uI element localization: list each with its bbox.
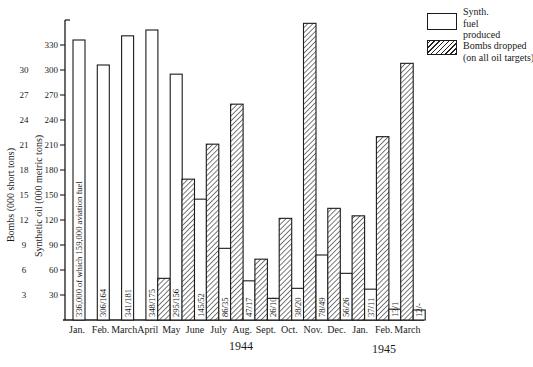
month-label: March — [394, 324, 420, 335]
bombs-axis-tick-label: 3 — [22, 290, 27, 300]
synth-fuel-bar-label: 38/20 — [293, 297, 303, 317]
month-label: Jan. — [69, 324, 85, 335]
bombs-axis-title: Bombs (000 short tons) — [5, 148, 16, 242]
bombs-dropped-bar — [231, 104, 244, 320]
month-label: Oct. — [281, 324, 298, 335]
synthetic-oil-axis-title: Synthetic oil (000 metric tons) — [33, 135, 44, 257]
synth-axis-tick-label: 270 — [45, 90, 59, 100]
bombs-axis-tick-label: 15 — [20, 190, 30, 200]
bombs-dropped-bar — [158, 278, 171, 320]
legend-swatch-synth-fuel — [427, 13, 457, 30]
synth-fuel-bar — [170, 74, 182, 320]
bombs-axis-tick-label: 6 — [22, 265, 27, 275]
bombs-axis-tick-label: 12 — [20, 215, 29, 225]
month-label: May — [162, 324, 180, 335]
synth-fuel-bar-label: 37/11 — [366, 298, 376, 317]
synth-axis-tick-label: 240 — [45, 115, 59, 125]
synth-axis-tick-label: 300 — [45, 65, 59, 75]
synth-fuel-bar-label: 145/52 — [196, 293, 206, 317]
synth-fuel-bar-label: 47/17 — [244, 297, 254, 317]
bombs-axis-tick-label: 9 — [22, 240, 27, 250]
bombs-axis-tick-label: 21 — [20, 140, 29, 150]
month-label: July — [210, 324, 227, 335]
synth-axis-tick-label: 180 — [45, 165, 59, 175]
legend-label-bombs-dropped: Bombs dropped (on all oil targets) — [463, 40, 533, 63]
legend-line: (on all oil targets) — [463, 52, 533, 64]
synth-fuel-bar-label: 336,000 of which 159,000 aviation fuel — [74, 181, 84, 317]
legend-line: Synth. — [463, 6, 500, 18]
bombs-axis-tick-label: 27 — [20, 90, 30, 100]
synth-fuel-bar-label: 26/10 — [268, 297, 278, 317]
synth-axis-tick-label: 60 — [49, 265, 59, 275]
month-label: April — [137, 324, 158, 335]
synth-fuel-bar-label: 295/156 — [171, 288, 181, 317]
legend-line: Bombs dropped — [463, 40, 533, 52]
bombs-axis-tick-label: 18 — [20, 165, 30, 175]
bombs-dropped-bar — [376, 137, 389, 320]
synth-fuel-bar-label: 12/- — [414, 303, 424, 317]
synth-fuel-bar — [122, 36, 134, 320]
bombs-dropped-bar — [401, 63, 414, 320]
synth-axis-tick-label: 90 — [49, 240, 59, 250]
synth-fuel-bar-label: 86/35 — [220, 297, 230, 317]
year-label-1944: 1944 — [229, 339, 253, 354]
bombs-dropped-bar — [328, 208, 341, 320]
legend-swatch-bombs-dropped — [427, 40, 457, 55]
synth-axis-tick-label: 150 — [45, 190, 59, 200]
month-label: Dec. — [327, 324, 346, 335]
synth-axis-tick-label: 30 — [49, 290, 59, 300]
synth-fuel-bar — [97, 65, 109, 320]
synth-axis-tick-label: 210 — [45, 140, 59, 150]
bombs-dropped-bar — [279, 218, 292, 320]
month-label: Sept. — [256, 324, 276, 335]
synth-fuel-bar-label: 341/181 — [123, 289, 133, 317]
chart-figure: 3060901201501802102402703003303691215182… — [0, 0, 533, 367]
month-label: June — [186, 324, 205, 335]
bombs-dropped-bar — [255, 259, 268, 320]
year-label-1945: 1945 — [372, 342, 396, 357]
synth-fuel-bar-label: 13/1 — [390, 302, 400, 317]
bombs-dropped-bar — [182, 179, 195, 320]
month-label: Nov. — [303, 324, 322, 335]
chart-canvas: 3060901201501802102402703003303691215182… — [0, 0, 533, 367]
month-label: March — [111, 324, 137, 335]
month-label: Aug. — [232, 324, 252, 335]
synth-axis-tick-label: 120 — [45, 215, 59, 225]
bombs-dropped-bar — [304, 23, 317, 320]
month-label: Feb. — [375, 324, 393, 335]
synth-fuel-bar-label: 78/49 — [317, 297, 327, 317]
synth-axis-tick-label: 330 — [45, 40, 59, 50]
synth-fuel-bar-label: 56/26 — [341, 297, 351, 317]
bombs-axis-tick-label: 24 — [20, 115, 30, 125]
synth-fuel-bar-label: 348/175 — [147, 289, 157, 317]
legend-label-synth-fuel: Synth. fuel produced — [463, 6, 500, 41]
month-label: Jan. — [352, 324, 368, 335]
bombs-axis-tick-label: 30 — [20, 65, 30, 75]
bombs-dropped-bar — [352, 216, 365, 320]
synth-fuel-bar — [146, 30, 158, 320]
bars: 336,000 of which 159,000 aviation fuel30… — [73, 23, 425, 320]
legend-line: fuel — [463, 18, 500, 30]
synth-fuel-bar-label: 306/164 — [98, 288, 108, 317]
bombs-dropped-bar — [206, 144, 219, 320]
category-labels: Jan.Feb.MarchAprilMayJuneJulyAug.Sept.Oc… — [69, 324, 420, 335]
legend-line: produced — [463, 29, 500, 41]
month-label: Feb. — [92, 324, 110, 335]
